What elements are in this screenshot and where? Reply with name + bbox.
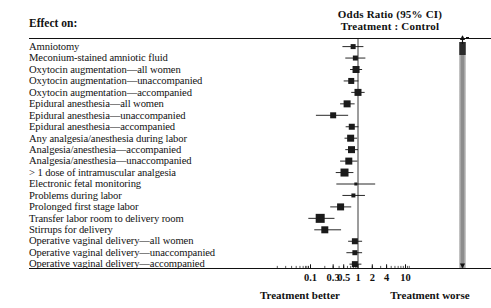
point-estimate-marker <box>352 238 358 244</box>
forest-row <box>316 112 348 118</box>
offscale-band <box>459 42 466 268</box>
forest-row <box>346 250 362 255</box>
row-label: Operative vaginal delivery—unaccompanied <box>29 247 244 258</box>
forest-row <box>314 226 341 233</box>
row-label: Epidural anesthesia—all women <box>29 98 244 109</box>
forest-row <box>348 238 362 244</box>
forest-row <box>351 89 364 96</box>
point-estimate-marker <box>351 193 355 197</box>
axis-caption-treatment-worse: Treatment worse <box>370 289 490 301</box>
point-estimate-marker <box>337 203 344 210</box>
point-estimate-marker <box>341 169 349 177</box>
header-rule <box>29 38 491 39</box>
point-estimate-marker <box>330 112 336 118</box>
row-label: Epidural anesthesia—accompanied <box>29 121 244 132</box>
point-estimate-marker <box>316 214 325 223</box>
point-estimate-marker <box>345 158 352 165</box>
forest-row <box>340 158 357 165</box>
forest-row <box>342 44 363 49</box>
forest-row <box>336 169 354 177</box>
forest-row <box>342 193 365 197</box>
forest-row <box>345 146 358 153</box>
point-estimate-marker <box>348 146 355 153</box>
forest-row <box>336 183 375 186</box>
forest-row <box>340 100 355 107</box>
point-estimate-marker <box>348 78 354 84</box>
row-label: Electronic fetal monitoring <box>29 178 244 189</box>
forest-row <box>349 261 361 267</box>
row-label: Oxytocin augmentation—unaccompanied <box>29 75 244 86</box>
forest-row <box>344 78 359 84</box>
forest-row <box>308 214 334 223</box>
forest-row <box>345 56 365 61</box>
row-label: Meconium-stained amniotic fluid <box>29 52 244 63</box>
row-label: Prolonged first stage labor <box>29 201 244 212</box>
row-label-list: AmniotomyMeconium-stained amniotic fluid… <box>29 41 244 270</box>
row-label: Transfer labor room to delivery room <box>29 213 244 224</box>
row-label: Stirrups for delivery <box>29 224 244 235</box>
point-estimate-marker <box>354 183 357 186</box>
forest-plot-figure: Effect on: Odds Ratio (95% CI) Treatment… <box>0 0 491 308</box>
chart-title-line2: Treatment : Control <box>300 20 480 32</box>
row-label: Analgesia/anesthesia—accompanied <box>29 144 244 155</box>
point-estimate-marker <box>355 89 362 96</box>
row-label: Operative vaginal delivery—accompanied <box>29 258 244 269</box>
point-estimate-marker <box>349 124 355 130</box>
row-label: Amniotomy <box>29 41 244 52</box>
forest-row <box>345 135 358 142</box>
point-estimate-marker <box>321 226 328 233</box>
chart-title-line1: Odds Ratio (95% CI) <box>300 8 480 20</box>
row-label: Oxytocin augmentation—all women <box>29 64 244 75</box>
point-estimate-marker <box>352 250 357 255</box>
offscale-band-cap <box>459 42 465 55</box>
row-label: Operative vaginal delivery—all women <box>29 235 244 246</box>
x-axis-tick-label: 10 <box>386 272 426 283</box>
axis-caption-treatment-better: Treatment better <box>240 289 360 301</box>
point-estimate-marker <box>353 56 358 61</box>
point-estimate-marker <box>351 44 356 49</box>
forest-row <box>346 124 359 130</box>
forest-row <box>350 66 362 73</box>
point-estimate-marker <box>352 261 358 267</box>
row-label: Problems during labor <box>29 190 244 201</box>
row-label: Analgesia/anesthesia—unaccompanied <box>29 155 244 166</box>
row-label: > 1 dose of intramuscular analgesia <box>29 167 244 178</box>
point-estimate-marker <box>353 66 360 73</box>
row-label: Oxytocin augmentation—accompanied <box>29 87 244 98</box>
row-label: Epidural anesthesia—unaccompanied <box>29 110 244 121</box>
column-header-effect-on: Effect on: <box>29 17 77 29</box>
point-estimate-marker <box>347 135 354 142</box>
forest-row <box>330 203 351 210</box>
row-label: Any analgesia/anesthesia during labor <box>29 133 244 144</box>
point-estimate-marker <box>344 100 351 107</box>
